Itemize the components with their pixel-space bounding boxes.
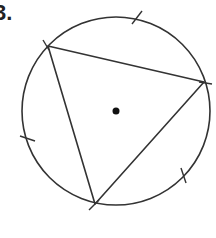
geometry-figure bbox=[0, 0, 216, 238]
center-point bbox=[113, 108, 120, 115]
tick-mark bbox=[199, 82, 212, 84]
tick-mark bbox=[132, 11, 142, 24]
